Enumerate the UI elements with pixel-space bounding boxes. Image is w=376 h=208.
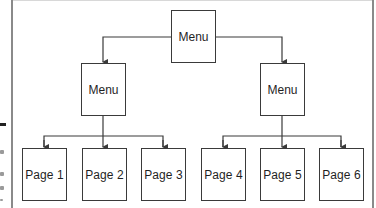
- page-node-4: Page 4: [201, 148, 246, 201]
- left-menu-node: Menu: [81, 63, 126, 116]
- node-label: Page 1: [25, 168, 64, 182]
- root-menu-node: Menu: [171, 10, 216, 63]
- page-node-3: Page 3: [141, 148, 186, 201]
- node-label: Page 4: [204, 168, 243, 182]
- page-node-2: Page 2: [82, 148, 127, 201]
- node-label: Menu: [178, 30, 208, 44]
- page-node-6: Page 6: [319, 148, 364, 201]
- node-label: Page 6: [322, 168, 361, 182]
- page-node-1: Page 1: [22, 148, 67, 201]
- node-label: Page 2: [85, 168, 124, 182]
- node-label: Page 5: [263, 168, 302, 182]
- edge-root-left-menu: [103, 37, 171, 62]
- right-menu-node: Menu: [260, 63, 305, 116]
- node-label: Menu: [88, 83, 118, 97]
- page-node-5: Page 5: [260, 148, 305, 201]
- node-label: Menu: [267, 83, 297, 97]
- node-label: Page 3: [144, 168, 183, 182]
- edge-root-right-menu: [215, 37, 282, 62]
